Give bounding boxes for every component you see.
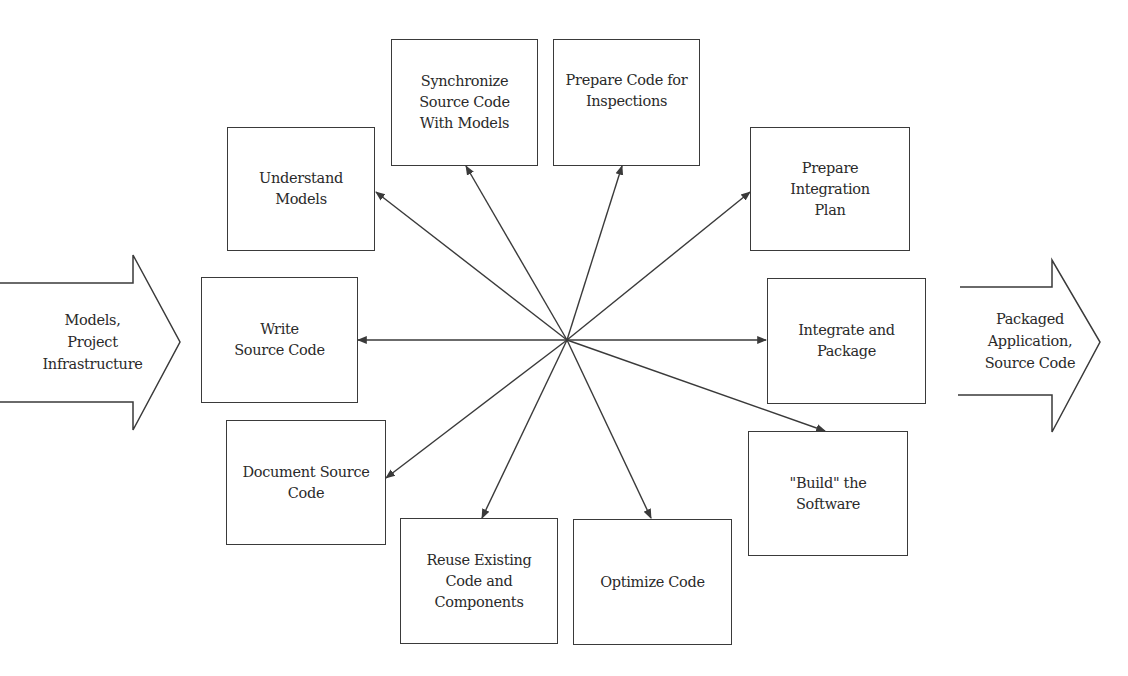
activity-label: Integrate and Package — [798, 320, 895, 362]
activity-document-source-code: Document Source Code — [226, 420, 386, 545]
activity-label: Optimize Code — [600, 572, 705, 593]
input-label: Models, Project Infrastructure — [30, 309, 155, 375]
activity-prepare-code-inspections: Prepare Code for Inspections — [553, 39, 700, 166]
activity-integrate-and-package: Integrate and Package — [767, 278, 926, 404]
activity-label: "Build" the Software — [790, 473, 867, 515]
activity-label: Understand Models — [259, 168, 343, 210]
activity-optimize-code: Optimize Code — [573, 519, 732, 645]
activity-label: Reuse Existing Code and Components — [426, 550, 531, 613]
activity-write-source-code: Write Source Code — [201, 277, 358, 403]
activity-label: Prepare Code for Inspections — [566, 70, 688, 112]
activity-reuse-existing-code: Reuse Existing Code and Components — [400, 518, 558, 644]
activity-prepare-integration-plan: Prepare Integration Plan — [750, 127, 910, 251]
activity-label: Document Source Code — [242, 462, 369, 504]
activity-synchronize-source-code: Synchronize Source Code With Models — [391, 39, 538, 166]
activity-build-software: "Build" the Software — [748, 431, 908, 556]
activity-label: Synchronize Source Code With Models — [419, 71, 510, 134]
activity-label: Prepare Integration Plan — [790, 158, 870, 221]
activity-label: Write Source Code — [234, 319, 325, 361]
activity-understand-models: Understand Models — [227, 127, 375, 251]
output-label: Packaged Application, Source Code — [975, 308, 1085, 374]
